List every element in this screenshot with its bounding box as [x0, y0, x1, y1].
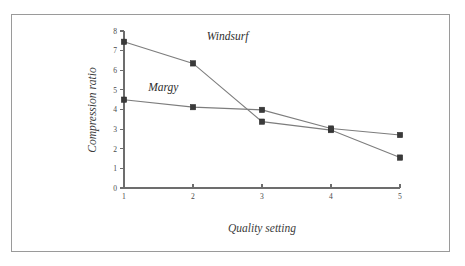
series-marker-windsurf [121, 39, 126, 44]
x-axis-tick-label: 5 [398, 192, 402, 201]
y-axis-tick-label: 8 [113, 27, 117, 36]
y-axis-tick-label: 1 [113, 164, 117, 173]
y-axis-tick-label: 2 [113, 145, 117, 154]
series-label-margy: Margy [147, 81, 179, 94]
y-axis-tick-label: 0 [113, 184, 117, 193]
x-axis-tick-label: 2 [191, 192, 195, 201]
y-axis-tick-label: 7 [113, 46, 117, 55]
y-axis-tick-label: 4 [113, 105, 117, 114]
series-marker-windsurf [259, 119, 264, 124]
series-line-margy [124, 100, 400, 135]
line-chart-plot-area: 012345678 12345 WindsurfMargy Quality se… [0, 0, 465, 266]
y-axis-title: Compression ratio [86, 67, 99, 153]
x-axis-tick-label: 4 [329, 192, 333, 201]
x-axis-tick-label: 3 [260, 192, 264, 201]
series-marker-margy [397, 132, 402, 137]
series-label-windsurf: Windsurf [207, 30, 250, 43]
series-marker-windsurf [397, 155, 402, 160]
y-axis-tick-label: 3 [113, 125, 117, 134]
data-series-group [121, 39, 402, 160]
figure-container: 012345678 12345 WindsurfMargy Quality se… [0, 0, 465, 266]
x-axis-tick-label: 1 [122, 192, 126, 201]
series-line-windsurf [124, 42, 400, 158]
series-marker-margy [328, 126, 333, 131]
series-marker-windsurf [190, 61, 195, 66]
y-axis-tick-label: 6 [113, 66, 117, 75]
series-marker-margy [259, 107, 264, 112]
x-axis-title: Quality setting [228, 222, 296, 235]
x-axis: 12345 [122, 184, 402, 201]
series-annotations: WindsurfMargy [147, 30, 250, 94]
series-marker-margy [121, 97, 126, 102]
y-axis: 012345678 [113, 27, 124, 193]
series-marker-margy [190, 104, 195, 109]
y-axis-tick-label: 5 [113, 86, 117, 95]
